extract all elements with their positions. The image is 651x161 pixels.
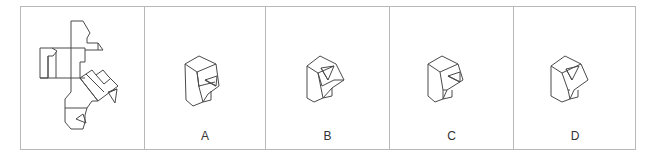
option-d-label: D [514, 129, 636, 143]
unfolded-net-figure [20, 6, 144, 150]
option-c-panel[interactable]: C [390, 6, 513, 150]
option-c-label: C [390, 129, 513, 143]
option-a-label: A [145, 129, 265, 143]
option-b-label: B [266, 129, 389, 143]
option-d-panel[interactable]: D [514, 6, 636, 150]
net-panel [20, 6, 144, 150]
option-b-panel[interactable]: B [266, 6, 389, 150]
option-a-panel[interactable]: A [145, 6, 265, 150]
